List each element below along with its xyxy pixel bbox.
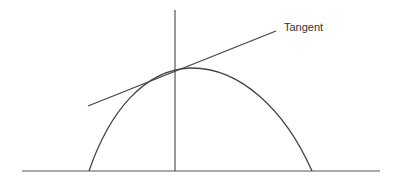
tangent-line (88, 31, 276, 106)
diagram-svg (0, 0, 396, 179)
tangent-label: Tangent (284, 21, 323, 33)
tangent-diagram: Tangent (0, 0, 396, 179)
parabola-curve (89, 68, 312, 171)
